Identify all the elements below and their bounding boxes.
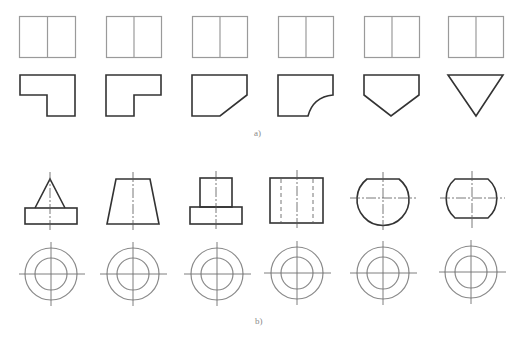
front-view-b1-cone-on-base	[25, 172, 77, 231]
top-view-b1-circles	[19, 242, 85, 306]
part-a-top-views	[20, 17, 504, 58]
front-view-a2-l-shape	[106, 75, 161, 116]
front-view-b6-double-truncated-sphere	[440, 171, 505, 228]
top-view-b5-circles	[350, 241, 417, 305]
front-view-a5-pentagon	[364, 75, 419, 116]
top-view-b4-circles	[264, 241, 331, 305]
top-view-b6-circles	[439, 240, 506, 304]
part-a-label: a)	[254, 128, 261, 138]
part-b-top-views	[19, 240, 506, 306]
front-view-b5-truncated-sphere	[350, 172, 416, 230]
top-view-a5	[365, 17, 420, 58]
part-a-front-views	[20, 75, 503, 116]
top-view-a2	[107, 17, 162, 58]
front-view-a4-arc	[278, 75, 333, 116]
front-view-a1-l-shape	[20, 75, 75, 116]
top-view-a4	[279, 17, 334, 58]
front-view-b4-bored-cylinder	[270, 170, 323, 230]
top-view-b2-circles	[100, 242, 167, 306]
part-b-front-views	[25, 170, 505, 231]
top-view-a1	[20, 17, 76, 58]
technical-drawing	[0, 0, 524, 343]
top-view-b3-circles	[184, 242, 251, 306]
part-b-label: b)	[255, 316, 263, 326]
front-view-a6-triangle	[448, 75, 503, 116]
front-view-b2-truncated-cone	[107, 172, 159, 231]
top-view-a6	[449, 17, 504, 58]
top-view-a3	[193, 17, 248, 58]
front-view-a3-chamfer	[192, 75, 247, 116]
front-view-b3-stepped-cylinder	[190, 171, 242, 231]
